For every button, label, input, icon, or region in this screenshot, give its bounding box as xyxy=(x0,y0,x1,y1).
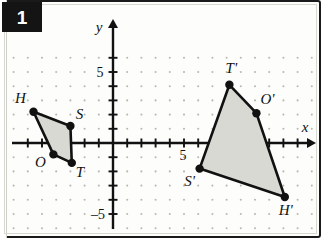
vertex-dot-o-prime xyxy=(252,109,260,117)
vertex-dot-h xyxy=(29,108,37,116)
y-tick-label-5: 5 xyxy=(97,65,104,80)
problem-number-badge: 1 xyxy=(2,2,42,32)
polygons xyxy=(34,85,285,197)
coordinate-plane-svg: HSTOT'O'H'S' yx5–55 xyxy=(2,2,319,236)
vertex-dot-t-prime xyxy=(225,81,233,89)
vertex-dot-o xyxy=(49,150,57,158)
vertex-label-o: O xyxy=(35,154,46,170)
y-axis-label: y xyxy=(94,19,103,35)
x-tick-label-5: 5 xyxy=(180,148,187,163)
vertex-label-h: H xyxy=(14,90,27,106)
vertex-label-t-prime: T' xyxy=(226,60,238,76)
coordinate-plane: HSTOT'O'H'S' yx5–55 xyxy=(2,2,319,236)
vertex-label-s-prime: S' xyxy=(184,173,196,189)
vertex-label-h-prime: H' xyxy=(278,202,294,218)
vertex-dot-s-prime xyxy=(195,164,203,172)
vertex-dot-h-prime xyxy=(281,193,289,201)
y-tick-label-neg5: –5 xyxy=(90,207,105,222)
x-axis-label: x xyxy=(301,119,309,135)
worksheet-figure: 1 HSTOT'O'H'S' yx5–55 xyxy=(0,0,321,238)
problem-number-text: 1 xyxy=(17,8,28,27)
vertex-label-s: S xyxy=(76,106,84,122)
vertex-dot-s xyxy=(66,122,74,130)
vertex-label-o-prime: O' xyxy=(260,91,275,107)
